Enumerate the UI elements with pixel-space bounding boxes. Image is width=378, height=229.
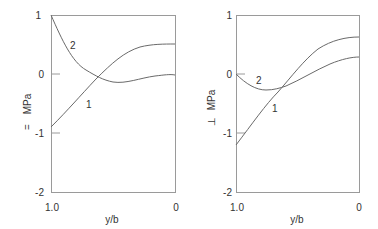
left-ytick-label-0: 0 [38,69,44,80]
right-curve-label-2: 2 [256,75,262,86]
right-ytick-label-1: 1 [226,10,232,21]
left-ytick-label-minus2: -2 [35,187,44,198]
right-y-axis-symbol: ⊥ [206,117,217,126]
right-curve-1 [236,37,359,145]
left-x-axis-label: y/b [105,214,119,225]
right-y-axis-unit: MPa [206,89,217,110]
right-xtick-label-0: 0 [356,202,362,213]
right-xtick-label-1: 1.0 [230,202,244,213]
left-curve-label-1: 1 [86,99,92,110]
left-y-axis-label: MPa [22,93,33,114]
right-y-axis-label: MPa [206,89,217,110]
left-xtick-label-0: 0 [173,202,179,213]
left-chart: 1 0 -1 -2 1.0 0 y/b MPa = 2 1 [22,10,179,225]
figure: 1 0 -1 -2 1.0 0 y/b MPa = 2 1 1 0 -1 -2 … [0,0,378,229]
right-x-axis-label: y/b [290,214,304,225]
left-ytick-label-1: 1 [35,10,41,21]
right-ytick-label-minus1: -1 [223,128,232,139]
right-ytick-label-minus2: -2 [223,187,232,198]
right-curve-2 [236,57,359,90]
left-curve-label-2: 2 [70,40,76,51]
right-chart: 1 0 -1 -2 1.0 0 y/b MPa ⊥ 2 1 [206,10,362,225]
left-xtick-label-1: 1.0 [45,202,59,213]
left-curve-1 [51,44,175,127]
right-curve-label-1: 1 [272,103,278,114]
right-plot-frame [237,16,360,193]
right-ytick-label-0: 0 [226,69,232,80]
left-ytick-label-minus1: -1 [35,128,44,139]
left-y-axis-symbol: = [22,124,33,130]
left-y-axis-unit: MPa [22,93,33,114]
